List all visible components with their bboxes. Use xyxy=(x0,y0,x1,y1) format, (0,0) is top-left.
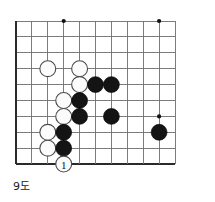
numbered-moves-group[interactable]: 1 xyxy=(56,156,72,172)
white-stone[interactable] xyxy=(40,140,56,156)
black-stone[interactable] xyxy=(72,108,88,124)
stones-group[interactable] xyxy=(40,61,167,156)
go-board-container[interactable]: 1 xyxy=(0,0,215,176)
black-stone[interactable] xyxy=(103,77,119,93)
black-stone[interactable] xyxy=(72,93,88,109)
star-point xyxy=(62,19,66,23)
black-stone[interactable] xyxy=(103,108,119,124)
white-stone[interactable] xyxy=(40,124,56,140)
black-stone[interactable] xyxy=(56,124,72,140)
white-stone[interactable] xyxy=(56,108,72,124)
go-diagram-figure: 1 9도 xyxy=(0,0,215,202)
black-stone[interactable] xyxy=(151,124,167,140)
move-number-label: 1 xyxy=(61,159,67,171)
black-stone[interactable] xyxy=(56,140,72,156)
white-stone[interactable] xyxy=(72,77,88,93)
black-stone[interactable] xyxy=(88,77,104,93)
go-board[interactable]: 1 xyxy=(0,0,215,176)
white-stone[interactable] xyxy=(40,61,56,77)
white-stone[interactable] xyxy=(56,93,72,109)
figure-caption: 9도 xyxy=(13,180,30,194)
star-point xyxy=(157,114,161,118)
white-stone[interactable] xyxy=(72,61,88,77)
star-point xyxy=(157,19,161,23)
